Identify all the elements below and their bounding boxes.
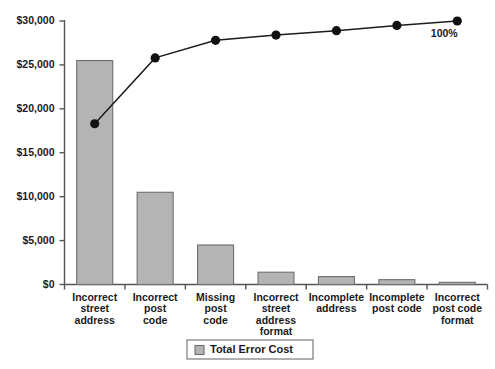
pareto-chart: $0$5,000$10,000$15,000$20,000$25,000$30,…	[0, 0, 495, 369]
cumulative-point	[453, 16, 462, 25]
x-axis-category-label: Incorrectstreetaddressformat	[254, 291, 299, 338]
x-axis-category-label: Incompleteaddress	[309, 291, 365, 315]
bar	[258, 272, 294, 284]
cumulative-point	[211, 36, 220, 45]
y-axis-tick-label: $30,000	[17, 14, 55, 26]
y-axis-tick-label: $20,000	[17, 102, 55, 114]
chart-legend: Total Error Cost	[187, 340, 313, 359]
legend-swatch	[195, 346, 204, 355]
cumulative-point	[332, 26, 341, 35]
y-axis-tick-label: $5,000	[22, 234, 54, 246]
bar	[439, 282, 475, 284]
cumulative-point	[90, 119, 99, 128]
y-axis-tick-label: $15,000	[17, 146, 55, 158]
cumulative-point	[271, 30, 280, 39]
chart-annotations: 100%	[431, 27, 459, 39]
y-axis-tick-label: $0	[43, 278, 55, 290]
cumulative-point	[151, 53, 160, 62]
bar	[137, 192, 173, 284]
x-axis-category-label: Incompletepost code	[369, 291, 425, 315]
legend-label: Total Error Cost	[210, 343, 293, 355]
bar	[318, 277, 354, 285]
chart-canvas: $0$5,000$10,000$15,000$20,000$25,000$30,…	[0, 0, 495, 369]
cumulative-annotation: 100%	[431, 27, 459, 39]
cumulative-point	[392, 21, 401, 30]
bar	[198, 245, 234, 285]
y-axis-tick-label: $10,000	[17, 190, 55, 202]
bar	[379, 280, 415, 285]
bar	[77, 61, 113, 285]
y-axis-tick-label: $25,000	[17, 58, 55, 70]
